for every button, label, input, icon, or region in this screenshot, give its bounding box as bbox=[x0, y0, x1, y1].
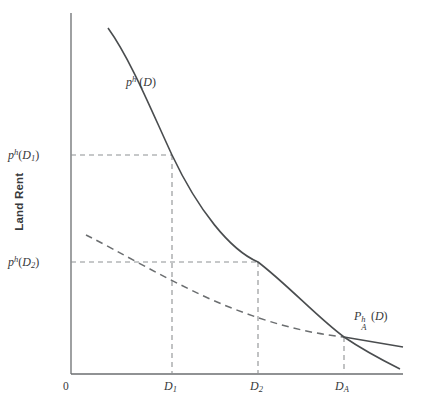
y-tick-label-phd2: ph(D2) bbox=[8, 255, 39, 269]
curve-label-agricultural: PhA (D) bbox=[354, 310, 388, 322]
land-rent-chart: Land Rent ph(D1) ph(D2) 0 D1 D2 DA ph (D… bbox=[0, 0, 423, 411]
plot-area bbox=[0, 0, 423, 411]
curve-agricultural-bid-rent bbox=[86, 235, 344, 337]
y-axis-title: Land Rent bbox=[14, 162, 26, 242]
x-tick-label-d2: D2 bbox=[250, 380, 263, 394]
x-tick-label-da: DA bbox=[335, 380, 349, 394]
x-tick-label-origin: 0 bbox=[63, 381, 69, 393]
y-tick-label-phd1: ph(D1) bbox=[8, 148, 39, 162]
curve-label-housing: ph (D) bbox=[126, 75, 156, 88]
x-tick-label-d1: D1 bbox=[164, 380, 177, 394]
